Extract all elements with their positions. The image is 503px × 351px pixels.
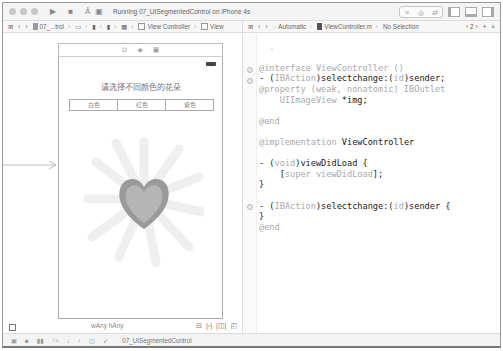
related-items-icon[interactable]: ⊞ (8, 23, 13, 30)
debug-bar: ▣ ■ ▮▮ ⤼ ↓ ↑ ◫ ➶ 07_UISegmentedControl (3, 333, 500, 346)
breakpoints-icon[interactable]: ■ (25, 337, 29, 344)
jump-bar-project[interactable]: 07_...trol (33, 23, 65, 30)
view-controller-icon (138, 23, 145, 30)
version-editor-icon[interactable]: ⇄ (428, 7, 442, 17)
entry-point-arrow-icon (3, 160, 58, 170)
utilities-toggle-icon[interactable] (482, 7, 494, 17)
battery-icon (206, 62, 216, 66)
jump-bar-view-controller[interactable]: View Controller (138, 23, 190, 30)
standard-editor-icon[interactable]: ≡ (400, 7, 414, 17)
step-in-icon[interactable]: ↓ (67, 337, 70, 344)
stop-icon[interactable]: ■ (68, 8, 73, 16)
scheme-icon[interactable]: Å (85, 8, 90, 16)
jump-bar-file[interactable]: ViewController.m (317, 23, 371, 30)
device-icon[interactable]: ▣ (95, 8, 103, 16)
iphone-scene[interactable]: 请选择不同颜色的花朵 白色 红色 紫色 (58, 57, 223, 319)
forward-button[interactable]: › (25, 23, 27, 30)
connection-dot-icon[interactable] (247, 78, 253, 84)
storyboard-jump-bar: ⊞ ‹ › 07_...trol › ▭ › ▮ › ▮ › ▦ › View … (3, 21, 243, 33)
storyboard-icon[interactable]: ▮ (107, 23, 110, 30)
toolbar: ▶ ■ Å ▣ Running 07_UISegmentedControl on… (3, 3, 500, 21)
prompt-label[interactable]: 请选择不同颜色的花朵 (59, 81, 222, 92)
counterpart-count: 2 (470, 23, 474, 30)
next-counterpart-button[interactable]: › (476, 23, 478, 30)
view-controller-icon[interactable]: ⊙ (122, 46, 128, 54)
segment-purple[interactable]: 紫色 (166, 100, 213, 110)
editor-mode-selector[interactable]: ≡ ◎ ⇄ (399, 6, 443, 18)
connection-dot-icon[interactable] (247, 204, 253, 210)
related-items-icon[interactable]: ⊞ (248, 23, 253, 30)
segment-red[interactable]: 红色 (118, 100, 166, 110)
jump-bar-selection[interactable]: No Selection (383, 23, 419, 30)
first-responder-icon[interactable]: ◈ (137, 46, 142, 54)
scene-icon[interactable]: ▦ (121, 23, 127, 30)
file-icon (33, 23, 38, 30)
exit-icon[interactable]: ▣ (153, 46, 160, 54)
flower-image-view[interactable] (84, 137, 204, 267)
storyboard-canvas[interactable]: ⊙ ◈ ▣ 请选择不同颜色的花朵 白色 红色 紫色 (3, 34, 243, 321)
pause-icon[interactable]: ▮▮ (37, 337, 44, 344)
segmented-control[interactable]: 白色 红色 紫色 (69, 99, 214, 111)
activity-status: Running 07_UISegmentedControl on iPhone … (113, 6, 298, 18)
pin-icon[interactable]: |◫| (216, 322, 226, 330)
zoom-button[interactable] (31, 8, 38, 15)
view-icon (201, 23, 208, 30)
connection-dot-icon[interactable] (247, 67, 253, 73)
folder-icon[interactable]: ▭ (75, 23, 81, 30)
hide-debug-area-icon[interactable]: ▣ (11, 337, 17, 344)
stack-icon[interactable]: ⊟ (196, 322, 202, 330)
step-over-icon[interactable]: ⤼ (52, 336, 59, 344)
close-button[interactable] (9, 8, 16, 15)
scene-dock: ⊙ ◈ ▣ (58, 43, 223, 57)
play-icon[interactable]: ▶ (50, 8, 56, 16)
debug-area-toggle-icon[interactable] (465, 7, 477, 17)
source-file-icon (317, 23, 322, 30)
back-button[interactable]: ‹ (18, 23, 20, 30)
source-code[interactable]: . @interface ViewController () - (IBActi… (259, 31, 450, 232)
jump-bar-view[interactable]: View (201, 23, 224, 30)
storyboard-file-icon[interactable]: ▮ (92, 23, 95, 30)
size-class-selector[interactable]: wAny hAny (91, 322, 124, 329)
assistant-editor-icon[interactable]: ◎ (414, 7, 428, 17)
close-editor-button[interactable]: × (491, 23, 495, 30)
minimize-button[interactable] (20, 8, 27, 15)
location-icon[interactable]: ➶ (103, 337, 108, 344)
segment-white[interactable]: 白色 (70, 100, 118, 110)
automatic-mode[interactable]: ◌Automatic (273, 23, 307, 30)
align-icon[interactable]: |▫| (206, 322, 212, 330)
size-class-bar: wAny hAny ⊟ |▫| |◫| ◰ (3, 321, 243, 333)
back-button[interactable]: ‹ (258, 23, 260, 30)
resolve-icon[interactable]: ◰ (230, 322, 237, 330)
forward-button[interactable]: › (265, 23, 267, 30)
add-editor-button[interactable]: + (483, 23, 487, 30)
xcode-window: ▶ ■ Å ▣ Running 07_UISegmentedControl on… (2, 2, 501, 348)
debug-target: 07_UISegmentedControl (122, 337, 191, 344)
step-out-icon[interactable]: ↑ (78, 337, 81, 344)
outline-toggle-icon[interactable] (9, 324, 16, 331)
view-debugger-icon[interactable]: ◫ (89, 337, 95, 344)
code-editor[interactable]: . @interface ViewController () - (IBActi… (243, 34, 500, 333)
prev-counterpart-button[interactable]: ‹ (466, 23, 468, 30)
navigator-toggle-icon[interactable] (448, 7, 460, 17)
